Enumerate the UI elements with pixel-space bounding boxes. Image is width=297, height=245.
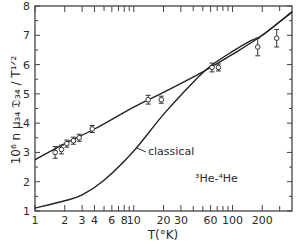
x-tick-label: 1 [32,214,39,227]
data-point [90,127,95,132]
data-point [53,150,58,155]
x-tick-label: 6 [108,214,115,227]
data-point [216,65,221,70]
y-axis-title: 10⁶ n μ₃₄ 𝔇₃₄ / T¹ᐟ² [9,55,23,164]
y-tick-label: 4 [23,117,30,130]
x-tick-label: 200 [252,214,273,227]
data-point [274,36,279,41]
data-point [255,45,260,50]
x-tick-label: 60 [204,214,218,227]
y-tick-label: 8 [23,0,30,13]
y-tick-label: 1 [23,205,30,218]
x-tick-label: 4 [91,214,98,227]
y-tick-label: 6 [23,59,30,72]
x-axis-title: T(°K) [147,228,179,242]
x-tick-label: 20 [157,214,171,227]
y-tick-label: 2 [23,176,30,189]
data-point [210,65,215,70]
data-point [159,97,164,102]
data-point [71,138,76,143]
x-tick-label: 100 [222,214,243,227]
data-point [77,135,82,140]
plot-frame [35,6,292,211]
data-point [65,141,70,146]
x-tick-label: 30 [174,214,188,227]
classical-label: classical [148,145,194,158]
system-label: ³He-⁴He [195,172,238,185]
x-tick-label: 10 [127,214,141,227]
y-tick-label: 5 [23,88,30,101]
x-tick-label: 2 [61,214,68,227]
y-tick-label: 3 [23,146,30,159]
data-point [146,97,151,102]
x-tick-label: 3 [79,214,86,227]
chart: 1234681020306010020012345678 T(°K) 10⁶ n… [0,0,297,245]
data-point [59,147,64,152]
classical-leader [137,148,146,152]
y-tick-label: 7 [23,29,30,42]
